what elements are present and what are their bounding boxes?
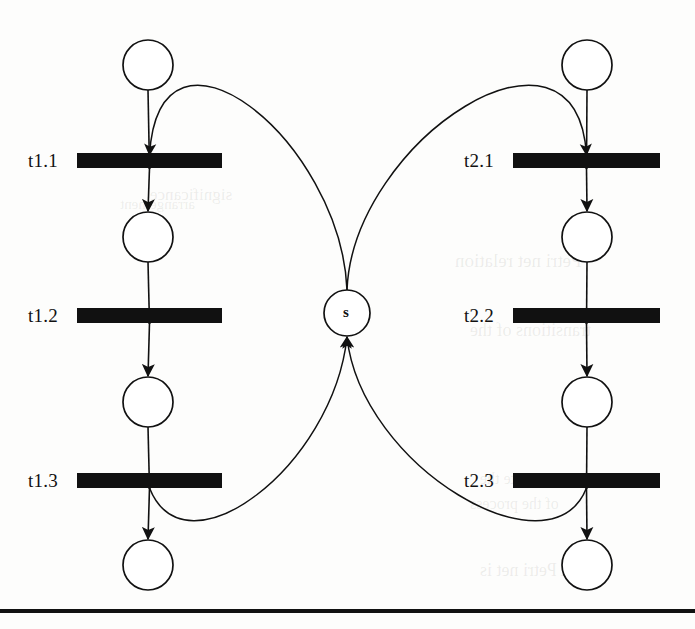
transition-label-t1.2: t1.2 [28,305,58,327]
arc-t1.3-to-p1.3 [148,488,150,539]
bottom-rule [0,609,695,613]
transition-label-t1.1: t1.1 [28,150,58,172]
transition-t2.1[interactable] [513,153,660,168]
place-p1.1[interactable] [123,212,173,262]
transition-t2.3[interactable] [513,473,660,488]
place-p1.3[interactable] [123,540,173,590]
arc-t1.2-to-p1.2 [148,323,150,376]
arc-t2.3-to-p2.3 [587,488,588,539]
place-p2.2[interactable] [562,377,612,427]
place-p2.0[interactable] [562,40,612,90]
arc-t2.3-to-s [347,337,587,521]
arc-t1.3-to-s [150,337,348,521]
arc-t2.2-to-p2.2 [587,323,588,376]
transition-t1.2[interactable] [77,308,222,323]
arc-t2.1-to-p2.1 [587,168,588,211]
transition-t1.3[interactable] [77,473,222,488]
arc-t1.1-to-p1.1 [148,168,150,211]
transition-label-t1.3: t1.3 [28,470,58,492]
place-p1.2[interactable] [123,377,173,427]
transition-t2.2[interactable] [513,308,660,323]
place-p2.3[interactable] [562,540,612,590]
transition-label-t2.1: t2.1 [464,150,494,172]
transition-label-t2.3: t2.3 [464,470,494,492]
arc-s-to-t1.1 [150,85,348,290]
place-label-s: s [343,304,349,321]
place-p2.1[interactable] [562,212,612,262]
place-p1.0[interactable] [123,40,173,90]
figure-canvas: significancearrangementPetri net relatio… [0,0,695,629]
transition-label-t2.2: t2.2 [464,305,494,327]
transition-t1.1[interactable] [77,153,222,168]
arc-s-to-t2.1 [347,85,587,290]
